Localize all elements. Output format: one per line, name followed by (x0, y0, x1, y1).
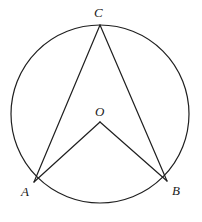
radius-o-to-a (34, 122, 100, 182)
vertex-label-o: O (95, 105, 104, 118)
vertex-label-a: A (21, 185, 29, 198)
geometry-figure: C O A B (0, 0, 202, 222)
chord-c-to-b (100, 25, 167, 181)
chord-c-to-a (34, 25, 100, 182)
vertex-label-c: C (94, 6, 103, 19)
radius-o-to-b (100, 122, 167, 181)
vertex-label-b: B (172, 184, 180, 197)
